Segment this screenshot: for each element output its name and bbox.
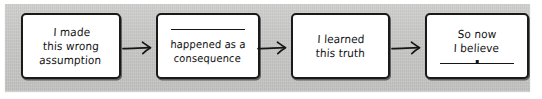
arrow-right-icon	[391, 40, 425, 56]
flow-node-2-label: happened as a consequence	[170, 37, 247, 65]
flow-node-4-blank-line	[440, 63, 514, 64]
flow-node-1-label: I made this wrong assumption	[39, 25, 103, 66]
flow-node-2-blank-line	[171, 29, 245, 30]
blank-line-tick-icon	[476, 60, 479, 64]
flow-row: I made this wrong assumption happened as…	[0, 0, 542, 99]
flow-node-2[interactable]: happened as a consequence	[156, 13, 260, 79]
flow-node-3[interactable]: I learned this truth	[291, 13, 390, 79]
arrow-right-icon	[122, 40, 156, 56]
flow-node-4-label: So now I believe	[454, 27, 501, 55]
arrow-right-icon	[257, 40, 291, 56]
flow-diagram: I made this wrong assumption happened as…	[0, 0, 542, 99]
flow-node-3-label: I learned this truth	[315, 32, 366, 60]
flow-node-1[interactable]: I made this wrong assumption	[21, 13, 121, 79]
flow-node-4[interactable]: So now I believe	[425, 13, 529, 79]
